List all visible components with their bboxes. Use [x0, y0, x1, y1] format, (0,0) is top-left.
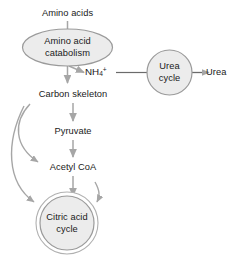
shape-label-amino-acid-catabolism-line2: catabolism	[0, 48, 135, 60]
shape-label-amino-acid-catabolism-line1: Amino acid	[0, 36, 135, 48]
shape-label-urea-cycle-line2: cycle	[134, 73, 205, 85]
edge-catabolism-to-ammonium	[69, 66, 84, 73]
node-label-urea: Urea	[206, 67, 240, 78]
node-label-pyruvate: Pyruvate	[0, 126, 146, 137]
edge-curve-into-citric-acid-cycle-right	[95, 182, 99, 202]
ammonium-symbol: NH	[85, 66, 99, 77]
node-label-acetyl-coa: Acetyl CoA	[0, 162, 146, 173]
ammonium-superscript: +	[103, 66, 107, 73]
shape-label-citric-acid-cycle-line2: cycle	[22, 224, 112, 236]
shape-label-citric-acid-cycle-line1: Citric acid	[22, 212, 112, 224]
amino-acid-catabolism-diagram: Amino acids Amino acid catabolism NH4+ U…	[0, 0, 240, 264]
node-label-carbon-skeleton: Carbon skeleton	[0, 89, 146, 100]
node-label-ammonium: NH4+	[85, 66, 107, 77]
edge-curve-carbon-skeleton-to-citric-acid-cycle	[12, 106, 34, 202]
node-label-amino-acids: Amino acids	[0, 8, 135, 19]
shape-label-urea-cycle-line1: Urea	[134, 61, 205, 73]
